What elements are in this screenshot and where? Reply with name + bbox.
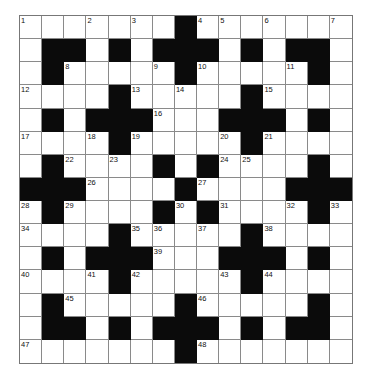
answer-cell[interactable] [330,132,352,155]
answer-cell[interactable] [219,178,241,201]
answer-cell[interactable] [86,201,108,224]
answer-cell[interactable] [153,178,175,201]
answer-cell[interactable] [20,317,42,340]
answer-cell[interactable] [263,317,285,340]
answer-cell[interactable] [175,109,197,132]
answer-cell[interactable] [197,247,219,270]
answer-cell[interactable] [131,340,153,363]
answer-cell[interactable]: 39 [153,247,175,270]
answer-cell[interactable] [64,270,86,293]
answer-cell[interactable]: 28 [20,201,42,224]
answer-cell[interactable] [330,270,352,293]
answer-cell[interactable] [263,155,285,178]
answer-cell[interactable]: 9 [153,62,175,85]
answer-cell[interactable] [64,16,86,39]
answer-cell[interactable] [42,85,64,108]
answer-cell[interactable] [286,109,308,132]
answer-cell[interactable] [263,201,285,224]
answer-cell[interactable] [219,294,241,317]
answer-cell[interactable]: 13 [131,85,153,108]
answer-cell[interactable] [86,85,108,108]
answer-cell[interactable] [241,178,263,201]
answer-cell[interactable] [131,317,153,340]
answer-cell[interactable] [263,39,285,62]
answer-cell[interactable] [175,132,197,155]
answer-cell[interactable] [219,340,241,363]
answer-cell[interactable]: 31 [219,201,241,224]
answer-cell[interactable] [86,155,108,178]
answer-cell[interactable] [64,247,86,270]
answer-cell[interactable] [219,85,241,108]
answer-cell[interactable] [175,155,197,178]
answer-cell[interactable]: 30 [175,201,197,224]
answer-cell[interactable] [20,62,42,85]
answer-cell[interactable]: 32 [286,201,308,224]
answer-cell[interactable] [42,340,64,363]
answer-cell[interactable] [131,39,153,62]
answer-cell[interactable] [219,224,241,247]
answer-cell[interactable]: 4 [197,16,219,39]
answer-cell[interactable] [64,224,86,247]
answer-cell[interactable] [286,270,308,293]
answer-cell[interactable] [308,340,330,363]
answer-cell[interactable] [86,340,108,363]
answer-cell[interactable] [86,294,108,317]
answer-cell[interactable] [286,132,308,155]
answer-cell[interactable] [153,340,175,363]
answer-cell[interactable]: 3 [131,16,153,39]
answer-cell[interactable] [153,16,175,39]
answer-cell[interactable]: 11 [286,62,308,85]
answer-cell[interactable] [330,340,352,363]
answer-cell[interactable] [330,109,352,132]
answer-cell[interactable] [286,247,308,270]
answer-cell[interactable]: 35 [131,224,153,247]
answer-cell[interactable]: 29 [64,201,86,224]
answer-cell[interactable] [330,85,352,108]
answer-cell[interactable] [286,294,308,317]
answer-cell[interactable] [330,39,352,62]
answer-cell[interactable] [131,62,153,85]
answer-cell[interactable]: 47 [20,340,42,363]
answer-cell[interactable] [109,201,131,224]
answer-cell[interactable]: 44 [263,270,285,293]
answer-cell[interactable] [263,62,285,85]
answer-cell[interactable] [197,109,219,132]
answer-cell[interactable]: 15 [263,85,285,108]
answer-cell[interactable]: 14 [175,85,197,108]
answer-cell[interactable] [86,317,108,340]
answer-cell[interactable]: 36 [153,224,175,247]
answer-cell[interactable]: 10 [197,62,219,85]
answer-cell[interactable] [86,224,108,247]
answer-cell[interactable]: 6 [263,16,285,39]
answer-cell[interactable]: 5 [219,16,241,39]
answer-cell[interactable]: 16 [153,109,175,132]
answer-cell[interactable] [153,132,175,155]
answer-cell[interactable] [219,317,241,340]
answer-cell[interactable] [131,178,153,201]
answer-cell[interactable] [241,16,263,39]
answer-cell[interactable] [286,16,308,39]
answer-cell[interactable] [109,16,131,39]
answer-cell[interactable] [64,340,86,363]
answer-cell[interactable]: 37 [197,224,219,247]
answer-cell[interactable] [263,178,285,201]
answer-cell[interactable] [175,247,197,270]
answer-cell[interactable]: 2 [86,16,108,39]
answer-cell[interactable] [330,317,352,340]
answer-cell[interactable] [241,201,263,224]
answer-cell[interactable] [109,340,131,363]
answer-cell[interactable] [263,340,285,363]
answer-cell[interactable]: 18 [86,132,108,155]
answer-cell[interactable]: 26 [86,178,108,201]
answer-cell[interactable] [109,178,131,201]
answer-cell[interactable]: 27 [197,178,219,201]
answer-cell[interactable] [42,270,64,293]
answer-cell[interactable] [241,294,263,317]
answer-cell[interactable] [286,340,308,363]
answer-cell[interactable]: 24 [219,155,241,178]
answer-cell[interactable]: 20 [219,132,241,155]
answer-cell[interactable] [153,270,175,293]
answer-cell[interactable] [64,109,86,132]
answer-cell[interactable]: 34 [20,224,42,247]
answer-cell[interactable]: 46 [197,294,219,317]
